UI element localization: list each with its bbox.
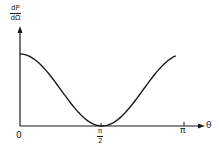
x-tick-half-pi-numerator: π bbox=[97, 128, 103, 137]
x-tick-pi: π bbox=[180, 126, 185, 135]
data-curve bbox=[20, 54, 176, 126]
x-tick-half-pi-denominator: 2 bbox=[98, 137, 102, 145]
x-tick-half-pi: π 2 bbox=[97, 128, 103, 145]
y-axis-label: dP dΩ bbox=[10, 5, 21, 22]
y-axis-arrow-icon bbox=[18, 26, 23, 33]
plot-area bbox=[0, 0, 219, 153]
x-axis-arrow-icon bbox=[198, 124, 205, 129]
y-label-denominator: dΩ bbox=[10, 14, 20, 22]
y-label-numerator: dP bbox=[10, 5, 21, 14]
x-tick-zero: 0 bbox=[16, 131, 22, 140]
x-axis-label: θ bbox=[206, 121, 212, 130]
